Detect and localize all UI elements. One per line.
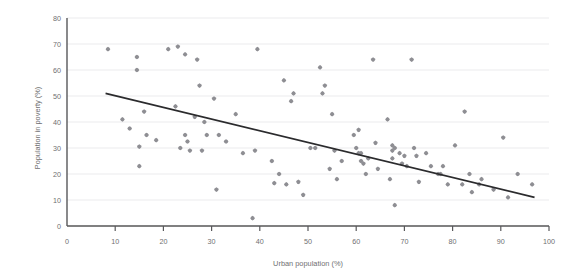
data-point (173, 104, 178, 109)
y-tick-label: 60 (53, 66, 61, 75)
data-point (296, 179, 301, 184)
data-point (202, 120, 207, 125)
data-point (255, 47, 260, 52)
y-tick-label: 30 (53, 144, 61, 153)
y-tick-label: 10 (53, 196, 61, 205)
data-point (397, 151, 402, 156)
data-point (429, 164, 434, 169)
data-point (530, 182, 535, 187)
data-point (327, 166, 332, 171)
data-point (462, 109, 467, 114)
x-tick-label: 70 (400, 237, 408, 246)
data-point (270, 159, 275, 164)
y-axis-title: Population in poverty (%) (33, 87, 42, 170)
x-tick-label: 50 (304, 237, 312, 246)
data-point (385, 117, 390, 122)
data-point (501, 135, 506, 140)
data-point (277, 172, 282, 177)
data-point (289, 99, 294, 104)
data-point (318, 65, 323, 70)
data-point (392, 203, 397, 208)
data-point (272, 181, 277, 186)
x-tick-labels: 0102030405060708090100 (65, 237, 555, 246)
data-point (200, 148, 205, 153)
x-tick-label: 10 (111, 237, 119, 246)
data-point (313, 146, 318, 151)
data-point (414, 153, 419, 158)
data-point (409, 57, 414, 62)
data-point (470, 190, 475, 195)
data-point (120, 117, 125, 122)
y-tick-label: 0 (57, 222, 61, 231)
data-point (154, 138, 159, 143)
data-point (204, 133, 209, 138)
data-point (142, 109, 147, 114)
x-tick-label: 80 (449, 237, 457, 246)
x-tick-label: 20 (159, 237, 167, 246)
data-point (506, 195, 511, 200)
data-point (453, 143, 458, 148)
y-tick-label: 20 (53, 170, 61, 179)
data-point (212, 96, 217, 101)
y-tick-label: 40 (53, 118, 61, 127)
data-point (515, 172, 520, 177)
data-point (135, 55, 140, 60)
x-tick-label: 100 (543, 237, 555, 246)
data-point (250, 216, 255, 221)
y-tick-label: 50 (53, 92, 61, 101)
data-point (176, 44, 181, 49)
data-point (106, 47, 111, 52)
data-point (185, 139, 190, 144)
data-point (371, 57, 376, 62)
data-point (467, 172, 472, 177)
data-point (335, 177, 340, 182)
data-point (376, 166, 381, 171)
data-point (460, 182, 465, 187)
data-point (224, 139, 229, 144)
data-point (320, 91, 325, 96)
x-tick-label: 30 (208, 237, 216, 246)
x-axis (67, 226, 549, 231)
data-point (323, 83, 328, 88)
data-point (412, 146, 417, 151)
data-point (373, 140, 378, 145)
data-point (339, 159, 344, 164)
grid-lines (67, 18, 549, 226)
data-point (363, 172, 368, 177)
data-point (356, 127, 361, 132)
data-point (441, 164, 446, 169)
data-point (291, 91, 296, 96)
data-point (402, 153, 407, 158)
data-point (354, 146, 359, 151)
data-point (445, 182, 450, 187)
data-point (388, 177, 393, 182)
data-point (183, 52, 188, 57)
data-point (166, 47, 171, 52)
data-point (216, 133, 221, 138)
x-axis-title: Urban population (%) (273, 259, 343, 268)
data-point (135, 68, 140, 73)
data-point (241, 151, 246, 156)
data-point (127, 126, 132, 131)
x-tick-label: 0 (65, 237, 69, 246)
data-point (195, 57, 200, 62)
data-point (253, 148, 258, 153)
data-point (479, 177, 484, 182)
data-point (188, 148, 193, 153)
data-point (233, 112, 238, 117)
data-point (137, 164, 142, 169)
data-point (282, 78, 287, 83)
data-point (351, 133, 356, 138)
x-tick-label: 60 (352, 237, 360, 246)
data-point (308, 146, 313, 151)
data-point (284, 182, 289, 187)
data-point (197, 83, 202, 88)
y-tick-label: 70 (53, 40, 61, 49)
data-point (301, 192, 306, 197)
data-point (390, 156, 395, 161)
data-point (424, 151, 429, 156)
trend-line-group (106, 93, 535, 197)
y-tick-labels: 01020304050607080 (53, 14, 61, 231)
plot-canvas: 01020304050607080 0102030405060708090100… (0, 0, 582, 280)
data-point (183, 133, 188, 138)
